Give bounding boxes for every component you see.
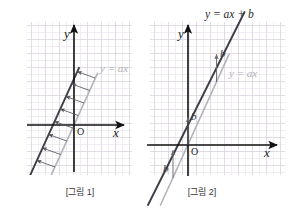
figure2-y-axis-label: y xyxy=(176,26,184,41)
figure2-line-gray xyxy=(161,54,230,205)
figure1-group: y x O y = ax xyxy=(27,22,132,176)
figure2-caption: [그림 2] xyxy=(172,185,232,198)
figure1-x-axis-label: x xyxy=(112,125,119,140)
figure2-origin-label: O xyxy=(191,146,198,157)
figure2-line-gray-label: y = ax xyxy=(228,67,257,79)
figure1-origin-label: O xyxy=(77,126,84,137)
figure2-x-axis-label: x xyxy=(263,145,270,160)
figure1-y-axis-label: y xyxy=(62,26,70,41)
math-figure-svg: y x O y = ax xyxy=(0,0,293,210)
figure1-grid xyxy=(27,22,132,175)
figure-container: y x O y = ax xyxy=(0,0,293,210)
figure1-line-dark xyxy=(30,68,79,176)
figure2-axes xyxy=(147,25,277,176)
figure2-shift-label-middle: b xyxy=(191,110,197,122)
figure1-caption: [그림 1] xyxy=(50,185,110,198)
figure2-shift-label-top: b xyxy=(220,47,226,59)
figure2-shift-label-bottom: b xyxy=(163,162,169,174)
figure2-group: y x O y = ax + b y = ax b b b xyxy=(147,8,285,205)
figure2-line-dark-label: y = ax + b xyxy=(204,8,254,21)
figure1-line-gray-label: y = ax xyxy=(99,62,128,74)
